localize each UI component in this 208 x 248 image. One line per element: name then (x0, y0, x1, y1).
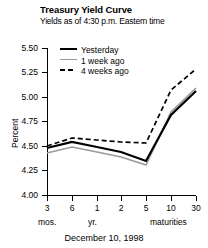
legend-item-4-weeks-ago: 4 weeks ago (60, 65, 129, 76)
legend-swatch-dashed-black-icon (60, 69, 77, 71)
legend-label: 4 weeks ago (81, 66, 129, 76)
legend-swatch-solid-black-icon (60, 48, 77, 50)
series-line-yesterday (47, 91, 196, 161)
legend-swatch-solid-gray-icon (60, 59, 77, 60)
legend-label: 1 week ago (81, 55, 124, 65)
chart-legend: Yesterday 1 week ago 4 weeks ago (60, 44, 129, 76)
legend-item-yesterday: Yesterday (60, 44, 129, 55)
legend-item-1-week-ago: 1 week ago (60, 55, 129, 66)
treasury-yield-curve-figure: Treasury Yield Curve Yields as of 4:30 p… (0, 0, 208, 248)
series-line-4-weeks-ago (47, 69, 196, 146)
legend-label: Yesterday (81, 45, 119, 55)
series-line-1-week-ago (47, 88, 196, 165)
chart-caption: December 10, 1998 (0, 233, 208, 243)
series-lines (0, 0, 208, 248)
